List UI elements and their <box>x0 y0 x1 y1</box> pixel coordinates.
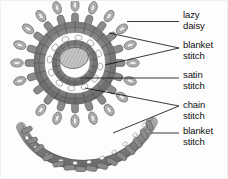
label-blanket-stitch-2-line1: blanket <box>183 125 213 136</box>
label-blanket-stitch-2: blanket stitch <box>183 125 213 147</box>
label-satin-stitch: satin stitch <box>183 69 205 91</box>
label-blanket-stitch-2-line2: stitch <box>183 136 213 147</box>
curved-band-motif <box>21 117 154 171</box>
label-blanket-stitch-1: blanket stitch <box>183 39 213 61</box>
label-satin-stitch-line1: satin <box>183 69 205 80</box>
circular-floral-motif <box>11 1 140 127</box>
label-lazy-daisy-line1: lazy <box>183 9 205 20</box>
label-lazy-daisy: lazy daisy <box>183 9 205 31</box>
label-blanket-stitch-1-line1: blanket <box>183 39 213 50</box>
figure-canvas: lazy daisy blanket stitch satin stitch c… <box>0 0 228 179</box>
label-lazy-daisy-line2: daisy <box>183 20 205 31</box>
label-satin-stitch-line2: stitch <box>183 80 205 91</box>
label-chain-stitch: chain stitch <box>183 99 205 121</box>
label-blanket-stitch-1-line2: stitch <box>183 50 213 61</box>
band-body <box>21 122 153 165</box>
label-chain-stitch-line2: stitch <box>183 110 205 121</box>
label-chain-stitch-line1: chain <box>183 99 205 110</box>
